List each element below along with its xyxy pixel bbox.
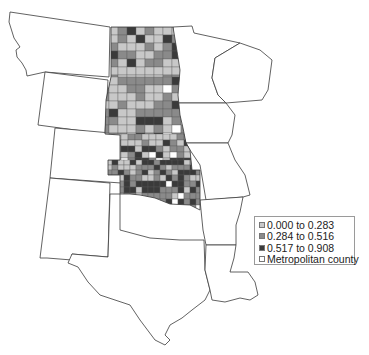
county bbox=[154, 160, 160, 165]
county bbox=[118, 187, 124, 193]
county bbox=[170, 146, 177, 152]
county bbox=[124, 199, 130, 205]
state-louisiana bbox=[205, 245, 258, 302]
county bbox=[130, 170, 136, 175]
county bbox=[163, 134, 170, 140]
county bbox=[112, 187, 118, 193]
county bbox=[172, 211, 178, 217]
county bbox=[178, 175, 184, 181]
county bbox=[136, 187, 142, 193]
county bbox=[145, 51, 154, 59]
county bbox=[178, 193, 184, 199]
county bbox=[136, 165, 142, 170]
county bbox=[130, 199, 136, 205]
county bbox=[178, 165, 184, 170]
county bbox=[190, 205, 196, 211]
county bbox=[130, 165, 136, 170]
county bbox=[142, 170, 148, 175]
county bbox=[160, 211, 166, 217]
county bbox=[163, 125, 172, 133]
county bbox=[172, 170, 178, 175]
county bbox=[124, 205, 130, 211]
map-legend: 0.000 to 0.283 0.284 to 0.516 0.517 to 0… bbox=[254, 216, 355, 265]
county bbox=[118, 27, 127, 35]
county bbox=[154, 51, 163, 59]
county bbox=[136, 199, 142, 205]
county bbox=[190, 193, 196, 199]
state-montana bbox=[9, 12, 110, 77]
county bbox=[136, 193, 142, 199]
county bbox=[127, 67, 136, 75]
legend-label-metro: Metropolitan county bbox=[267, 253, 359, 265]
county bbox=[127, 125, 136, 133]
county bbox=[184, 175, 190, 181]
county bbox=[178, 187, 184, 193]
county bbox=[130, 175, 136, 181]
county bbox=[156, 140, 163, 146]
choropleth-map bbox=[0, 0, 369, 355]
county bbox=[160, 165, 166, 170]
county bbox=[145, 67, 154, 75]
county bbox=[163, 51, 172, 59]
county bbox=[154, 101, 163, 109]
county bbox=[136, 85, 145, 93]
state-iowa bbox=[178, 103, 235, 143]
county bbox=[142, 152, 149, 158]
legend-swatch-high bbox=[259, 245, 265, 251]
county bbox=[163, 67, 172, 75]
legend-item-high: 0.517 to 0.908 bbox=[259, 242, 351, 254]
county bbox=[136, 101, 145, 109]
county bbox=[178, 211, 184, 217]
county bbox=[190, 181, 196, 187]
county bbox=[149, 152, 156, 158]
county bbox=[112, 165, 118, 170]
county bbox=[118, 77, 127, 85]
county bbox=[184, 165, 190, 170]
county bbox=[136, 125, 145, 133]
county bbox=[177, 134, 184, 140]
county bbox=[170, 140, 177, 146]
county bbox=[145, 109, 154, 117]
county bbox=[124, 175, 130, 181]
county bbox=[166, 187, 172, 193]
county bbox=[109, 59, 118, 67]
county bbox=[163, 152, 170, 158]
county bbox=[118, 160, 124, 165]
county bbox=[109, 51, 118, 59]
county bbox=[142, 140, 149, 146]
county bbox=[118, 67, 127, 75]
county bbox=[145, 85, 154, 93]
county bbox=[136, 77, 145, 85]
county bbox=[124, 160, 130, 165]
county bbox=[130, 205, 136, 211]
county bbox=[154, 181, 160, 187]
county bbox=[145, 27, 154, 35]
legend-item-low: 0.000 to 0.283 bbox=[259, 219, 351, 231]
county bbox=[136, 109, 145, 117]
county bbox=[184, 205, 190, 211]
county bbox=[145, 59, 154, 67]
county bbox=[166, 170, 172, 175]
county bbox=[136, 170, 142, 175]
county bbox=[166, 211, 172, 217]
county bbox=[142, 187, 148, 193]
state-wyoming bbox=[38, 72, 108, 134]
county bbox=[163, 77, 172, 85]
county bbox=[109, 101, 118, 109]
county bbox=[196, 193, 202, 199]
county bbox=[145, 93, 154, 101]
county bbox=[127, 109, 136, 117]
county bbox=[166, 160, 172, 165]
county bbox=[154, 117, 163, 125]
county bbox=[142, 175, 148, 181]
county bbox=[121, 152, 128, 158]
county bbox=[172, 175, 178, 181]
county bbox=[127, 43, 136, 51]
county bbox=[136, 59, 145, 67]
county bbox=[190, 211, 196, 217]
county bbox=[148, 187, 154, 193]
county bbox=[177, 140, 184, 146]
county bbox=[124, 181, 130, 187]
county bbox=[109, 93, 118, 101]
county bbox=[177, 152, 184, 158]
